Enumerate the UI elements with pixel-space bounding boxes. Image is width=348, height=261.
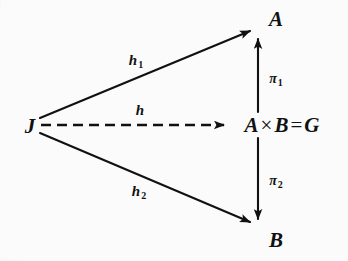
edge-h1 <box>40 31 250 118</box>
edge-label-pi2: π2 <box>269 172 283 190</box>
edge-label-h2-subscript: 2 <box>140 190 146 201</box>
node-label-j: J <box>25 116 36 137</box>
product-right-factor: B <box>274 113 288 137</box>
diagram-figure: J A B A×B=G h1 h h2 π1 π2 <box>0 0 348 261</box>
product-equals-sign: = <box>288 113 304 137</box>
edge-label-pi2-base: π <box>269 173 277 188</box>
edge-label-h1: h1 <box>129 52 143 70</box>
edge-label-pi1-subscript: 1 <box>277 77 283 88</box>
edge-label-h1-subscript: 1 <box>137 59 143 70</box>
edge-label-pi1-base: π <box>269 71 277 86</box>
node-label-b: B <box>269 230 283 251</box>
edge-label-pi2-subscript: 2 <box>277 179 283 190</box>
node-label-a: A <box>269 9 283 30</box>
edge-label-h-base: h <box>136 102 144 118</box>
product-times-sign: × <box>259 113 275 137</box>
node-label-product-expression: A×B=G <box>245 115 320 136</box>
arrow-h2-line <box>40 133 250 222</box>
edge-label-pi1: π1 <box>269 70 283 88</box>
arrow-h1-line <box>40 31 250 118</box>
product-left-factor: A <box>245 113 259 137</box>
edge-h2 <box>40 133 250 222</box>
product-result: G <box>304 113 319 137</box>
edge-label-h: h <box>136 102 144 118</box>
edge-label-h2: h2 <box>132 183 146 201</box>
